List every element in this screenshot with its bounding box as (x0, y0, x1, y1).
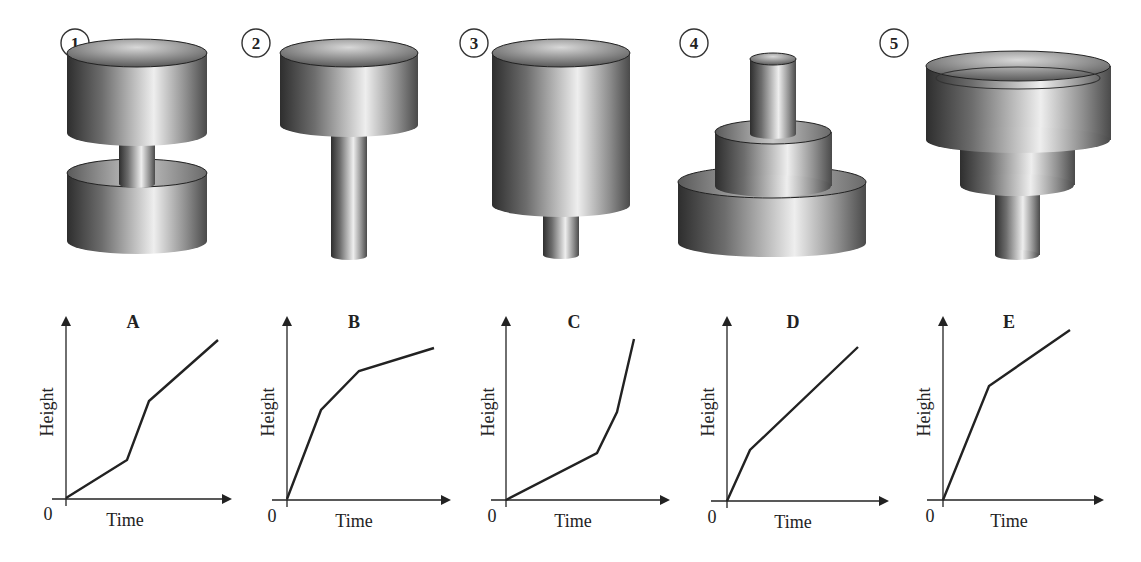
svg-text:Height: Height (258, 388, 278, 437)
svg-text:C: C (568, 312, 581, 332)
graph-b-curve (287, 348, 434, 499)
svg-text:D: D (787, 312, 800, 332)
number-badge: 2 (242, 29, 270, 57)
container-1: 1 (61, 29, 207, 254)
svg-text:Time: Time (106, 510, 143, 530)
svg-text:0: 0 (708, 507, 717, 527)
svg-text:5: 5 (890, 34, 899, 53)
number-badge: 3 (460, 29, 488, 57)
number-badge: 4 (680, 29, 708, 57)
svg-text:2: 2 (252, 34, 261, 53)
graph-a-curve (66, 340, 218, 498)
container-2: 2 (242, 29, 418, 260)
svg-text:E: E (1003, 312, 1015, 332)
svg-text:Height: Height (914, 388, 934, 437)
svg-text:0: 0 (44, 504, 53, 524)
container-4: 4 (678, 29, 866, 257)
svg-text:Time: Time (990, 511, 1027, 531)
graph-e: E 0 Time Height (914, 312, 1102, 531)
svg-text:0: 0 (268, 506, 277, 526)
graph-c-curve (506, 339, 634, 500)
svg-text:A: A (127, 312, 140, 332)
svg-text:B: B (348, 312, 360, 332)
graph-d: D 0 Time Height (698, 312, 887, 532)
svg-text:0: 0 (926, 506, 935, 526)
graph-e-curve (943, 330, 1070, 500)
svg-text:Time: Time (774, 512, 811, 532)
graph-a: A 0 Time Height (37, 312, 230, 530)
svg-text:Height: Height (37, 388, 57, 437)
number-badge: 5 (880, 29, 908, 57)
container-3: 3 (460, 29, 630, 259)
graph-c: C 0 Time Height (478, 312, 668, 531)
figure-canvas: 1 2 3 (0, 0, 1141, 562)
svg-text:Time: Time (554, 511, 591, 531)
svg-text:Height: Height (698, 388, 718, 437)
svg-text:0: 0 (488, 506, 497, 526)
svg-text:Time: Time (335, 511, 372, 531)
graph-d-curve (727, 347, 858, 501)
svg-text:Height: Height (478, 388, 498, 437)
graph-b: B 0 Time Height (258, 312, 449, 531)
container-5: 5 (880, 29, 1111, 260)
svg-text:4: 4 (690, 34, 699, 53)
svg-text:3: 3 (470, 34, 479, 53)
